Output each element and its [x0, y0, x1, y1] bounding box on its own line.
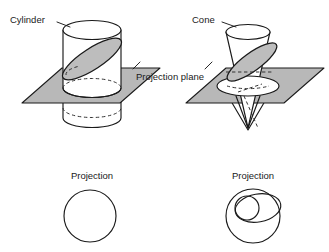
- projection-left-label: Projection: [71, 170, 113, 181]
- figure-root: Cylinder: [0, 0, 329, 252]
- cone-panel: Cone: [186, 14, 324, 130]
- conic-section-diagram: Cylinder: [0, 0, 329, 252]
- cone-projection-panel: Projection: [226, 170, 283, 243]
- cone-top-rim: [226, 25, 270, 40]
- projection-right-small-circle: [235, 196, 259, 220]
- cylinder-upper-body: [57, 21, 126, 98]
- cylinder-top-rim: [63, 21, 121, 40]
- projection-right-ellipse-group: [233, 190, 283, 226]
- cone-label: Cone: [192, 14, 215, 25]
- projection-plane-callout: Projection plane: [133, 62, 212, 82]
- projection-plane-leader-right: [205, 62, 212, 69]
- projection-right-inner-ellipse: [233, 190, 283, 226]
- cylinder-projection-panel: Projection: [64, 170, 116, 242]
- cone-plane-trace-ellipse: [217, 76, 279, 96]
- cone-leader-line: [222, 22, 236, 27]
- projection-right-label: Projection: [232, 170, 274, 181]
- cylinder-label: Cylinder: [10, 14, 45, 25]
- projection-left-circle: [64, 190, 116, 242]
- projection-plane-label: Projection plane: [136, 71, 204, 82]
